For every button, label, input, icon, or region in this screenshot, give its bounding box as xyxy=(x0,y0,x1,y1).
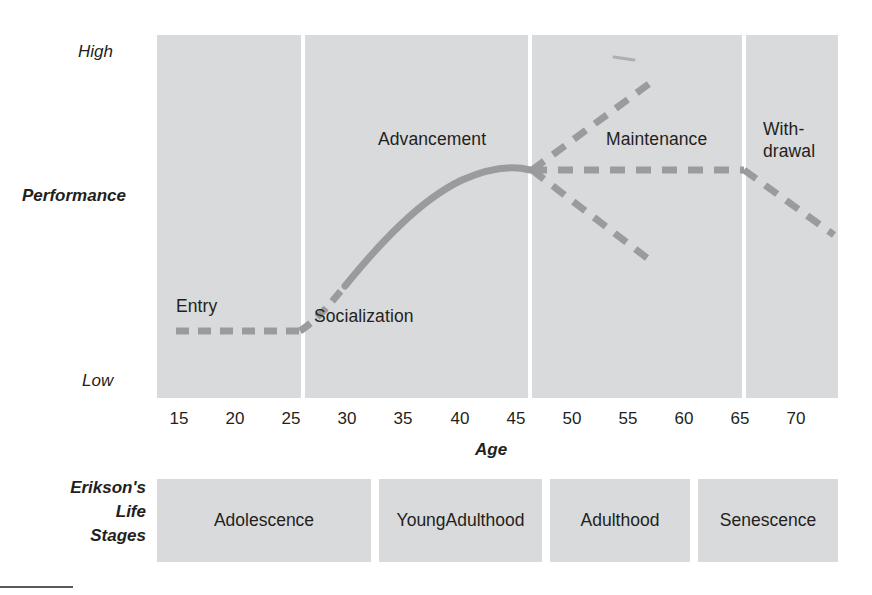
erikson-life-stages-title: Erikson's Life Stages xyxy=(0,476,146,548)
x-tick-70: 70 xyxy=(776,409,816,429)
x-tick-30: 30 xyxy=(327,409,367,429)
x-tick-65: 65 xyxy=(720,409,760,429)
erikson-title-line3: Stages xyxy=(0,524,146,548)
y-axis-title: Performance xyxy=(22,186,126,206)
label-advancement: Advancement xyxy=(378,129,486,150)
erikson-stage-adulthood: Adulthood xyxy=(550,479,690,562)
label-maintenance: Maintenance xyxy=(606,129,707,150)
career-divider-age-65 xyxy=(742,35,746,398)
erikson-stage-senescence: Senescence xyxy=(698,479,838,562)
x-tick-40: 40 xyxy=(440,409,480,429)
erikson-title-line2: Life xyxy=(0,500,146,524)
x-tick-45: 45 xyxy=(496,409,536,429)
label-entry: Entry xyxy=(176,296,217,317)
x-tick-55: 55 xyxy=(608,409,648,429)
label-withdrawal-line1: With- xyxy=(763,119,804,140)
erikson-stage-young-adulthood: YoungAdulthood xyxy=(379,479,542,562)
x-tick-60: 60 xyxy=(664,409,704,429)
x-tick-15: 15 xyxy=(159,409,199,429)
career-divider-age-25 xyxy=(301,35,305,398)
footer-rule xyxy=(0,586,73,588)
y-axis-high-label: High xyxy=(78,42,113,62)
y-axis-low-label: Low xyxy=(82,371,113,391)
erikson-title-line1: Erikson's xyxy=(0,476,146,500)
erikson-stage-adolescence: Adolescence xyxy=(157,479,371,562)
x-axis-title: Age xyxy=(475,440,507,460)
x-tick-50: 50 xyxy=(552,409,592,429)
x-tick-35: 35 xyxy=(383,409,423,429)
x-tick-20: 20 xyxy=(215,409,255,429)
x-tick-25: 25 xyxy=(271,409,311,429)
career-stages-figure: Entry Socialization Advancement Maintena… xyxy=(0,0,872,595)
plot-area xyxy=(157,35,838,398)
label-socialization: Socialization xyxy=(314,306,414,327)
career-divider-age-45 xyxy=(528,35,532,398)
label-withdrawal-line2: drawal xyxy=(763,141,815,162)
